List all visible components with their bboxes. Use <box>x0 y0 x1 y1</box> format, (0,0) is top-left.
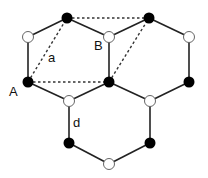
label-A: A <box>9 84 18 99</box>
label-B: B <box>94 38 103 53</box>
label-d: d <box>73 115 80 130</box>
label-a: a <box>48 50 56 65</box>
honeycomb-lattice-diagram: A B a d <box>0 0 208 178</box>
